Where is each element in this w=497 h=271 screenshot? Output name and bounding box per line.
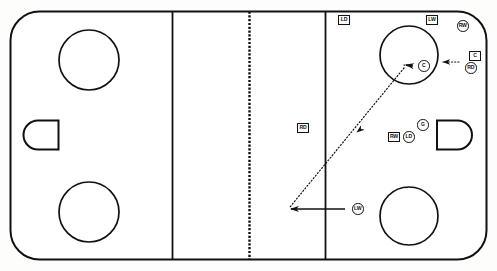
player-label: LW — [428, 17, 435, 22]
right-goal-crease — [437, 121, 472, 150]
player-label: RD — [299, 125, 306, 130]
player-marker-c-slot[interactable]: C — [418, 60, 430, 72]
player-label: RW — [459, 23, 467, 28]
player-marker-g-goalie[interactable]: G — [417, 119, 429, 131]
player-label: LD — [341, 17, 348, 22]
player-label: RW — [390, 134, 398, 139]
player-label: LD — [405, 134, 412, 139]
player-marker-ld-point[interactable]: LD — [338, 15, 350, 25]
left-goal-crease — [24, 121, 59, 150]
player-marker-lw-low[interactable]: LW — [352, 203, 364, 215]
player-marker-rw-corner[interactable]: RW — [457, 20, 469, 32]
player-label: LW — [354, 206, 361, 211]
player-marker-c-target[interactable]: C — [469, 51, 481, 61]
player-marker-rd-carrier[interactable]: RD — [465, 62, 477, 74]
rink-svg — [0, 0, 497, 271]
player-label: G — [421, 122, 425, 127]
player-label: C — [473, 53, 477, 58]
player-marker-lw-high[interactable]: LW — [426, 15, 438, 25]
skate-path-c-slot — [406, 65, 413, 66]
player-label: C — [422, 63, 425, 68]
player-marker-rw-net-front[interactable]: RW — [388, 132, 400, 142]
player-marker-rd-neutral[interactable]: RD — [297, 123, 309, 133]
rink-diagram: LD LW RW C RD C RD RW LD G LW — [0, 0, 497, 271]
player-label: RD — [467, 65, 474, 70]
player-marker-ld-net-front[interactable]: LD — [403, 131, 415, 143]
